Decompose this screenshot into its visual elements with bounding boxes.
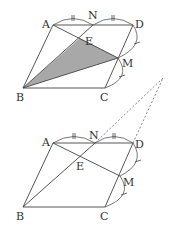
arc-MC (105, 58, 123, 88)
label-B: B (16, 91, 24, 104)
arc-AN (53, 19, 93, 26)
arc-ND (93, 19, 133, 26)
label-B-lower: B (16, 210, 24, 223)
upper-figure: A N D E M B C (16, 9, 144, 104)
label-D-lower: D (135, 138, 144, 151)
label-E-lower: E (76, 160, 84, 173)
label-D: D (135, 18, 144, 31)
label-C: C (100, 91, 108, 104)
parallelogram-ABCD-lower (23, 143, 133, 207)
label-E: E (85, 35, 93, 48)
lower-figure: A N D E M B C (16, 129, 144, 223)
arc-ND-lower (95, 137, 133, 144)
dashed-extension-CD (133, 78, 163, 143)
label-M-lower: M (123, 176, 134, 189)
label-N: N (88, 9, 98, 22)
segment-BN-lower (23, 143, 95, 207)
arc-MC-lower (105, 176, 125, 207)
label-C-lower: C (100, 210, 108, 223)
label-A: A (41, 18, 51, 31)
geometry-diagram: A N D E M B C A N D E M B C (0, 0, 172, 233)
label-M: M (122, 57, 133, 70)
label-N-lower: N (89, 129, 99, 142)
label-A-lower: A (41, 136, 51, 149)
